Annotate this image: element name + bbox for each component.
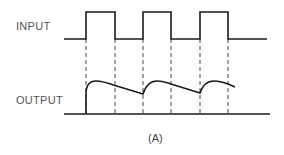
output-label: OUTPUT — [16, 95, 63, 106]
input-square-wave — [64, 12, 267, 39]
waveform-figure: INPUT OUTPUT (A) — [0, 0, 284, 155]
figure-caption: (A) — [148, 133, 163, 144]
input-label: INPUT — [16, 21, 51, 32]
output-waveform — [86, 81, 235, 114]
timing-guides — [86, 39, 228, 114]
